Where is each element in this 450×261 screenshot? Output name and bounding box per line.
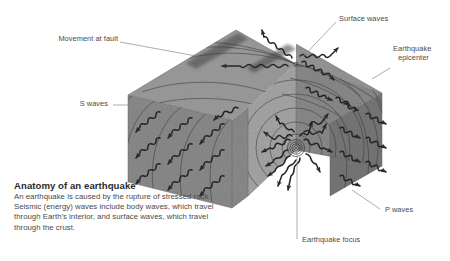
label-earthquake-epicenter: Earthquake epicenter [393,44,431,62]
figure-title: Anatomy of an earthquake [14,180,229,191]
label-epicenter-line2: epicenter [393,53,431,62]
label-s-waves-text: S waves [80,99,108,108]
leader-epicenter [372,68,390,79]
label-movement-at-fault-text: Movement at fault [58,34,118,43]
label-p-waves: P waves [385,205,413,214]
label-p-waves-text: P waves [385,205,413,214]
label-surface-waves-text: Surface waves [339,14,388,23]
label-surface-waves: Surface waves [339,14,388,23]
label-epicenter-line1: Earthquake [393,44,431,53]
leader-movement-at-fault [120,42,196,56]
label-movement-at-fault: Movement at fault [22,34,118,43]
figure-stage: Movement at fault Surface waves Earthqua… [0,0,450,261]
leader-surface-waves [300,22,336,60]
earthquake-focus-marker [288,140,305,157]
leader-p-waves [352,190,380,209]
label-earthquake-focus: Earthquake focus [302,235,360,244]
figure-caption: An earthquake is caused by the rupture o… [14,192,229,233]
label-earthquake-focus-text: Earthquake focus [302,235,360,244]
caption-block: Anatomy of an earthquake An earthquake i… [14,180,229,233]
label-s-waves: S waves [48,99,108,108]
